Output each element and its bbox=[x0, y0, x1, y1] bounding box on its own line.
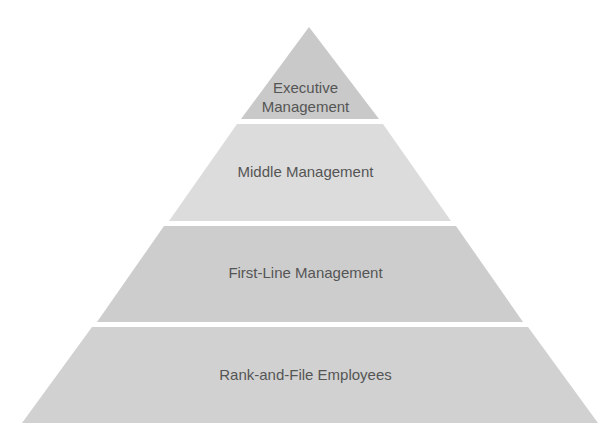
pyramid-shapes bbox=[0, 0, 611, 436]
tier-first-line-management-shape bbox=[97, 226, 523, 322]
tier-executive-management-shape bbox=[241, 27, 379, 119]
tier-middle-management-shape bbox=[169, 124, 451, 221]
tier-rank-and-file-shape bbox=[22, 327, 598, 423]
